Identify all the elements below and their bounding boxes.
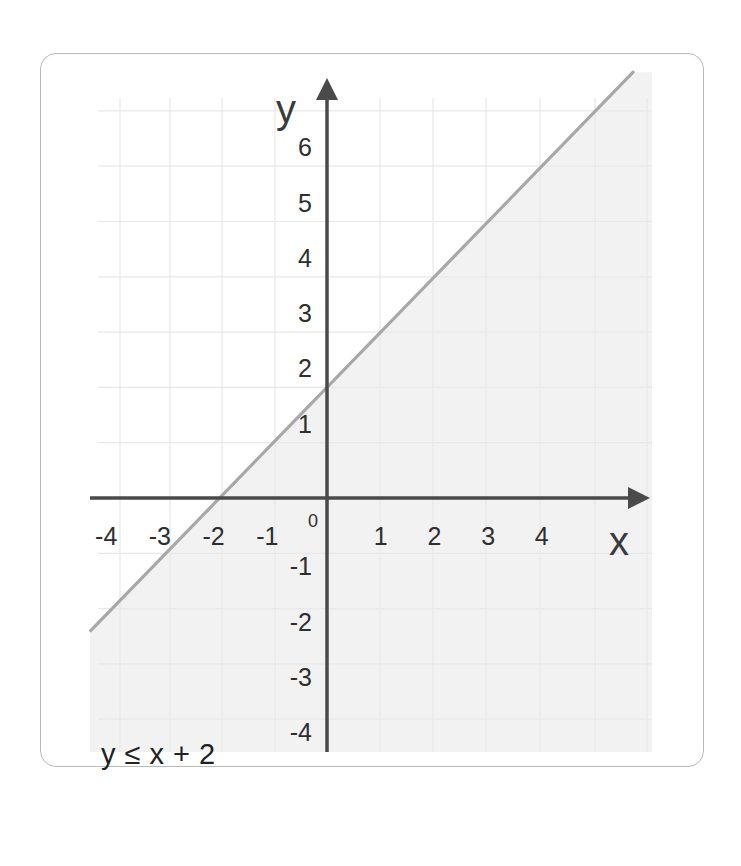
y-tick-label: -2 [290, 608, 312, 636]
y-tick-label: 2 [298, 354, 312, 382]
x-tick-label: -4 [95, 522, 117, 550]
y-tick-label: 1 [298, 410, 312, 438]
x-tick-label: -2 [202, 522, 224, 550]
y-tick-label: -4 [290, 718, 312, 746]
x-axis-label: x [609, 519, 629, 563]
solution-region [90, 72, 652, 752]
x-tick-label: -3 [149, 522, 171, 550]
x-tick-label: 1 [374, 522, 388, 550]
y-axis-label: y [276, 87, 296, 131]
inequality-graph: x y 0 -4-3-2-11234654321-1-2-3-4 [0, 0, 741, 866]
x-tick-label: -1 [256, 522, 278, 550]
origin-label: 0 [308, 511, 318, 531]
y-axis-arrow-icon [316, 78, 338, 100]
x-tick-label: 3 [481, 522, 495, 550]
y-tick-label: 3 [298, 299, 312, 327]
x-tick-label: 2 [427, 522, 441, 550]
x-tick-label: 4 [535, 522, 549, 550]
y-tick-label: -3 [290, 663, 312, 691]
y-tick-label: 5 [298, 189, 312, 217]
y-tick-label: 6 [298, 133, 312, 161]
shaded-region [90, 72, 652, 752]
y-tick-label: -1 [290, 552, 312, 580]
y-tick-label: 4 [298, 244, 312, 272]
inequality-caption: y ≤ x + 2 [101, 738, 216, 771]
